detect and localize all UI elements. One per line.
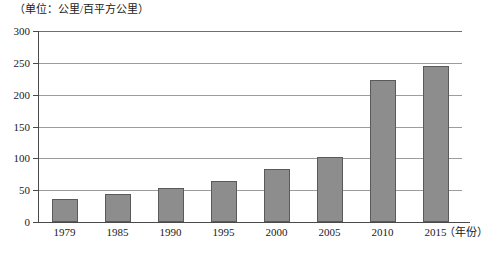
y-axis-tick-label: 0 (25, 217, 31, 228)
bar-1995 (211, 181, 237, 222)
x-axis-label-1990: 1990 (160, 226, 182, 239)
bar-2010 (370, 80, 396, 222)
bars-group (38, 31, 462, 222)
y-axis-tick-label: 300 (14, 26, 31, 37)
x-axis-label-2005: 2005 (319, 226, 341, 239)
bar-1985 (105, 194, 131, 222)
x-axis-label-2015: 2015 (425, 226, 447, 239)
x-axis-label-2010: 2010 (372, 226, 394, 239)
y-axis-tick-label: 50 (19, 185, 30, 196)
y-axis-tick-label: 100 (14, 153, 31, 164)
y-axis-tick-label: 150 (14, 121, 31, 132)
x-axis-line (38, 222, 470, 223)
x-axis-labels-group: （年份） 19791985199019952000200520102015 (38, 226, 470, 246)
bar-1990 (158, 188, 184, 222)
x-axis-label-1995: 1995 (213, 226, 235, 239)
bar-2015 (423, 66, 449, 222)
bar-2000 (264, 169, 290, 222)
bar-chart-figure: （单位：公里/百平方公里） 050100150200250300 （年份） 19… (0, 0, 486, 254)
x-axis-label-1985: 1985 (107, 226, 129, 239)
y-axis-tick-label: 250 (14, 57, 31, 68)
bar-1979 (52, 199, 78, 222)
x-axis-title: （年份） (444, 226, 486, 239)
y-axis-tick-label: 200 (14, 89, 31, 100)
bar-2005 (317, 157, 343, 222)
plot-area: 050100150200250300 (38, 31, 462, 222)
x-axis-label-1979: 1979 (54, 226, 76, 239)
unit-caption: （单位：公里/百平方公里） (14, 3, 149, 16)
x-axis-label-2000: 2000 (266, 226, 288, 239)
